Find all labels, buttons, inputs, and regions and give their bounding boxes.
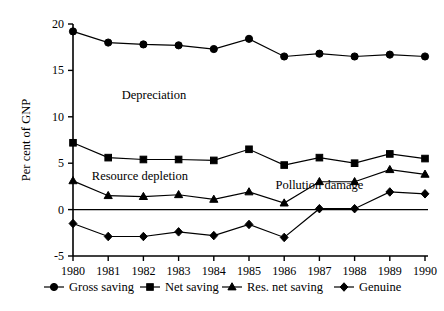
- gnp-savings-line-chart: Per cent of GNP -505101520 1980198119821…: [0, 0, 444, 311]
- y-tick-label: -5: [54, 249, 64, 263]
- legend-item-genuine[interactable]: Genuine: [334, 280, 402, 294]
- marker-triangle: [175, 191, 183, 198]
- x-tick-label: 1987: [307, 264, 331, 278]
- legend-item-net-saving[interactable]: Net saving: [140, 280, 220, 294]
- marker-square: [316, 154, 323, 161]
- y-axis-title: Per cent of GNP: [19, 99, 33, 181]
- marker-triangle: [228, 283, 236, 290]
- x-tick-label: 1984: [202, 264, 226, 278]
- marker-square: [246, 146, 253, 153]
- marker-circle: [175, 42, 182, 49]
- marker-circle: [105, 39, 112, 46]
- annotation-label: Depreciation: [122, 88, 187, 102]
- marker-triangle: [245, 188, 253, 195]
- marker-square: [351, 160, 358, 167]
- marker-circle: [69, 28, 76, 35]
- x-axis-ticks: 1980198119821983198419851986198719881989…: [61, 256, 437, 278]
- x-tick-label: 1986: [272, 264, 296, 278]
- annotation-label: Pollution damage: [275, 178, 363, 192]
- marker-diamond: [421, 190, 429, 199]
- y-tick-label: 5: [58, 156, 64, 170]
- x-tick-label: 1983: [167, 264, 191, 278]
- annotation-label: Resource depletion: [92, 169, 189, 183]
- chart-legend: Gross savingNet savingRes. net savingGen…: [44, 280, 402, 294]
- marker-circle: [245, 35, 252, 42]
- chart-container: Per cent of GNP -505101520 1980198119821…: [0, 0, 444, 311]
- y-tick-label: 15: [52, 63, 64, 77]
- marker-diamond: [386, 188, 394, 197]
- y-tick-label: 10: [52, 110, 64, 124]
- marker-diamond: [104, 232, 112, 241]
- marker-diamond: [139, 232, 147, 241]
- marker-circle: [281, 53, 288, 60]
- series-net-saving: [70, 139, 429, 168]
- legend-label: Genuine: [359, 280, 402, 294]
- x-tick-label: 1985: [237, 264, 261, 278]
- marker-square: [422, 155, 429, 162]
- marker-circle: [316, 50, 323, 57]
- marker-square: [105, 154, 112, 161]
- marker-square: [281, 162, 288, 169]
- series-gross-saving: [69, 28, 428, 60]
- marker-triangle: [69, 177, 77, 184]
- x-tick-label: 1989: [378, 264, 402, 278]
- legend-label: Gross saving: [69, 280, 135, 294]
- marker-square: [140, 156, 147, 163]
- y-axis-label: Per cent of GNP: [19, 99, 33, 181]
- marker-square: [147, 284, 154, 291]
- marker-square: [387, 151, 394, 158]
- marker-circle: [50, 283, 57, 290]
- marker-circle: [351, 53, 358, 60]
- x-tick-label: 1982: [131, 264, 155, 278]
- x-tick-label: 1990: [413, 264, 437, 278]
- plot-annotations: DepreciationResource depletionPollution …: [92, 88, 364, 192]
- series-line: [73, 192, 425, 237]
- marker-circle: [210, 45, 217, 52]
- y-tick-label: 0: [58, 203, 64, 217]
- legend-label: Res. net saving: [247, 280, 324, 294]
- legend-label: Net saving: [165, 280, 220, 294]
- marker-square: [211, 157, 218, 164]
- marker-diamond: [175, 228, 183, 237]
- x-tick-label: 1981: [96, 264, 120, 278]
- marker-diamond: [69, 219, 77, 228]
- marker-diamond: [340, 283, 348, 292]
- marker-square: [70, 139, 77, 146]
- x-tick-label: 1988: [343, 264, 367, 278]
- marker-diamond: [245, 220, 253, 229]
- marker-circle: [140, 41, 147, 48]
- marker-circle: [421, 53, 428, 60]
- marker-diamond: [210, 231, 218, 240]
- x-tick-label: 1980: [61, 264, 85, 278]
- marker-circle: [386, 51, 393, 58]
- y-tick-label: 20: [52, 17, 64, 31]
- marker-square: [175, 156, 182, 163]
- marker-diamond: [351, 204, 359, 213]
- legend-item-gross-saving[interactable]: Gross saving: [44, 280, 135, 294]
- legend-item-res-net-saving[interactable]: Res. net saving: [222, 280, 324, 294]
- marker-triangle: [386, 165, 394, 172]
